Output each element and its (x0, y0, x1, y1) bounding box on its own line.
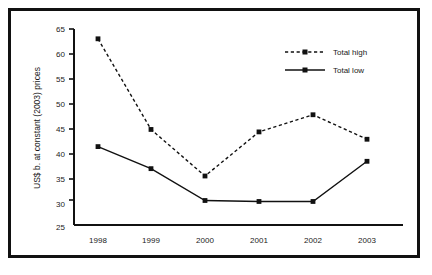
y-tick-label-55: 55 (56, 75, 65, 84)
data-point-total-high-2003 (365, 137, 370, 142)
x-tick-label-2003: 2003 (358, 236, 376, 245)
data-point-total-high-1999 (149, 127, 154, 132)
y-tick-label-60: 60 (56, 50, 65, 59)
series-line-total-high (98, 39, 367, 176)
data-point-total-low-2002 (311, 199, 316, 204)
data-point-total-low-2001 (257, 199, 262, 204)
y-tick-label-30: 30 (56, 200, 65, 209)
legend-label-total-high: Total high (333, 48, 367, 57)
y-tick-label-40: 40 (56, 150, 65, 159)
y-axis-label: US$ b. at constant (2003) prices (32, 67, 42, 189)
data-point-total-high-2001 (257, 130, 262, 135)
x-tick-label-2001: 2001 (250, 236, 268, 245)
series-layer (96, 36, 370, 203)
data-point-total-high-1998 (96, 36, 101, 41)
legend-marker-total-high (303, 50, 308, 55)
x-tick-label-2000: 2000 (196, 236, 214, 245)
series-line-total-low (98, 147, 367, 202)
y-tick-label-45: 45 (56, 125, 65, 134)
y-tick-label-65: 65 (56, 25, 65, 34)
x-tick-label-1998: 1998 (89, 236, 107, 245)
y-tick-label-35: 35 (56, 175, 65, 184)
data-point-total-low-2000 (203, 198, 208, 203)
chart-legend: Total high Total low (285, 48, 367, 75)
x-tick-label-2002: 2002 (304, 236, 322, 245)
legend-label-total-low: Total low (333, 66, 364, 75)
data-point-total-low-1999 (149, 166, 154, 171)
data-point-total-low-2003 (365, 159, 370, 164)
data-point-total-high-2002 (311, 112, 316, 117)
data-point-total-high-2000 (203, 174, 208, 179)
y-tick-label-50: 50 (56, 100, 65, 109)
y-tick-label-25: 25 (56, 223, 65, 232)
data-point-total-low-1998 (96, 144, 101, 149)
chart-figure: US$ b. at constant (2003) prices 65 60 5… (0, 0, 432, 275)
line-chart: US$ b. at constant (2003) prices 65 60 5… (0, 0, 432, 275)
legend-marker-total-low (303, 68, 308, 73)
x-tick-label-1999: 1999 (142, 236, 160, 245)
